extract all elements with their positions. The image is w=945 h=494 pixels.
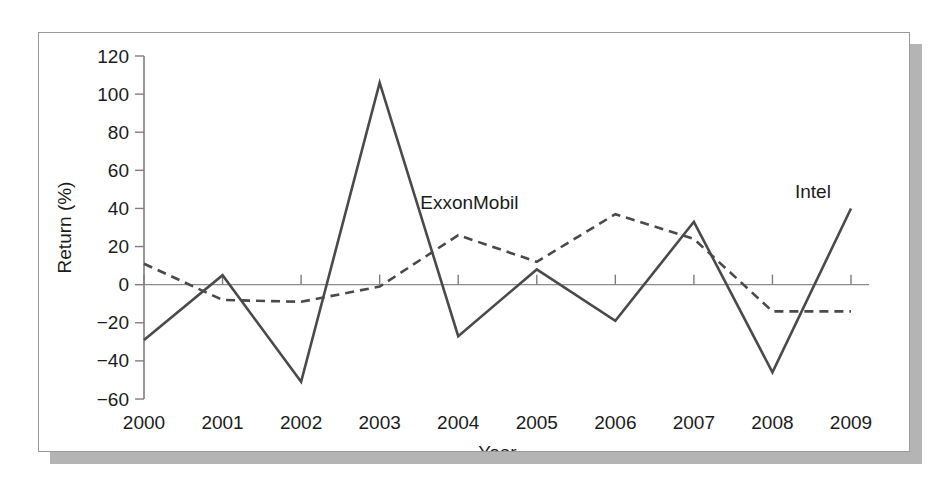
- series-line-intel: [144, 83, 851, 382]
- figure-root: 120100806040200−20−40−60Return (%)200020…: [0, 0, 945, 494]
- y-tick-label: 120: [97, 46, 129, 67]
- x-tick-label: 2004: [437, 412, 480, 433]
- x-tick-label: 2003: [359, 412, 401, 433]
- y-tick-label: −20: [97, 312, 129, 333]
- y-tick-label: 40: [108, 198, 129, 219]
- x-tick-label: 2006: [594, 412, 636, 433]
- x-tick-label: 2000: [123, 412, 165, 433]
- chart-card: 120100806040200−20−40−60Return (%)200020…: [38, 32, 910, 452]
- y-tick-label: −60: [97, 389, 129, 410]
- x-tick-label: 2005: [516, 412, 558, 433]
- y-axis-title: Return (%): [54, 182, 75, 274]
- series-label-intel: Intel: [795, 181, 831, 202]
- y-tick-label: 60: [108, 160, 129, 181]
- y-tick-label: −40: [97, 350, 129, 371]
- x-tick-label: 2001: [201, 412, 243, 433]
- y-tick-label: 100: [97, 84, 129, 105]
- y-tick-label: 0: [118, 274, 129, 295]
- x-axis-title: Year: [478, 442, 517, 451]
- y-tick-label: 20: [108, 236, 129, 257]
- return-line-chart: 120100806040200−20−40−60Return (%)200020…: [39, 33, 909, 451]
- x-tick-label: 2007: [673, 412, 715, 433]
- x-tick-label: 2008: [751, 412, 793, 433]
- y-tick-label: 80: [108, 122, 129, 143]
- series-label-exxonmobil: ExxonMobil: [420, 192, 518, 213]
- x-tick-label: 2009: [830, 412, 872, 433]
- series-line-exxonmobil: [144, 214, 851, 311]
- x-tick-label: 2002: [280, 412, 322, 433]
